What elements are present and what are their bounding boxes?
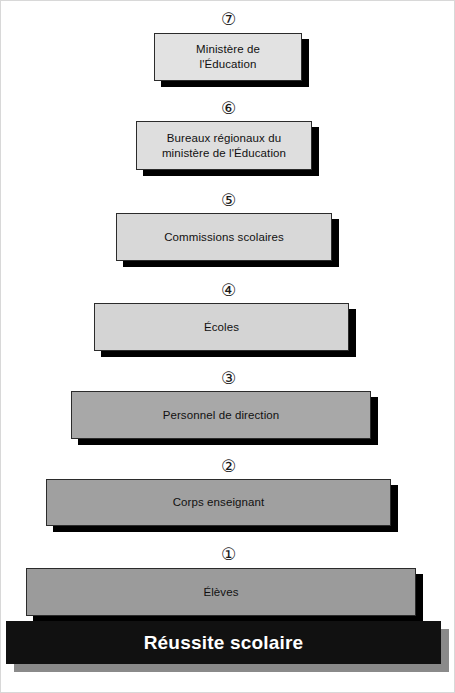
base-bar-label: Réussite scolaire [144,632,304,654]
tier-label-4: Écoles [198,320,245,335]
level-number-7: ⑦ [1,11,455,28]
level-number-3: ③ [1,370,455,387]
tier-box-5: Commissions scolaires [116,213,332,261]
tier-label-3: Personnel de direction [157,408,286,423]
tier-box-6: Bureaux régionaux du ministère de l'Éduc… [136,121,312,170]
tier-box-3: Personnel de direction [71,391,371,439]
tier-label-2: Corps enseignant [167,495,271,510]
tier-box-7: Ministère de l'Éducation [154,33,302,81]
level-number-6: ⑥ [1,100,455,117]
base-bar: Réussite scolaire [6,621,441,664]
tier-label-5: Commissions scolaires [158,230,290,245]
tier-box-1: Élèves [26,568,416,616]
level-number-5: ⑤ [1,192,455,209]
tier-label-7: Ministère de l'Éducation [190,42,266,72]
tier-box-2: Corps enseignant [46,479,391,526]
level-number-2: ② [1,458,455,475]
tier-box-4: Écoles [94,303,349,351]
pyramid-diagram: ⑦ Ministère de l'Éducation ⑥ Bureaux rég… [0,0,455,693]
level-number-1: ① [1,546,455,563]
tier-label-1: Élèves [197,585,244,600]
level-number-4: ④ [1,282,455,299]
tier-label-6: Bureaux régionaux du ministère de l'Éduc… [156,131,292,161]
